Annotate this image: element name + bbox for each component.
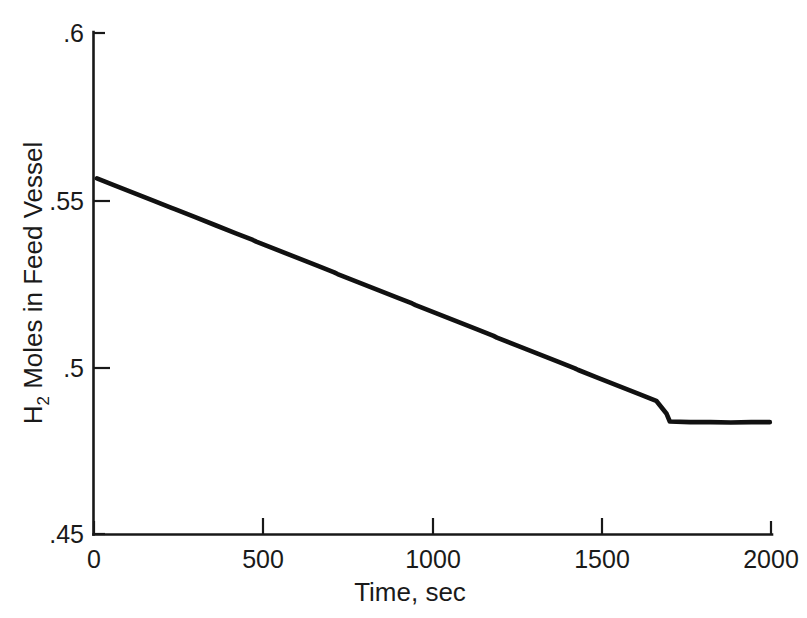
x-tick-label-0: 0 <box>87 545 101 573</box>
y-axis-ticks <box>94 33 111 534</box>
x-axis-ticks <box>94 518 771 535</box>
y-tick-label-0.55: .55 <box>49 187 84 215</box>
svg-text:H2 Moles in Feed Vessel: H2 Moles in Feed Vessel <box>18 142 53 425</box>
x-tick-label-500: 500 <box>242 545 284 573</box>
x-tick-label-2000: 2000 <box>743 545 799 573</box>
y-tick-label-0.45: .45 <box>49 520 84 548</box>
y-axis-title-base: H <box>18 406 48 425</box>
y-tick-label-0.5: .5 <box>63 354 84 382</box>
figure-container: .6 .55 .5 .45 0 500 1000 1500 2000 Time,… <box>0 0 807 618</box>
x-axis-title: Time, sec <box>354 577 466 607</box>
y-axis-title: H2 Moles in Feed Vessel <box>18 142 53 425</box>
x-tick-label-1500: 1500 <box>574 545 630 573</box>
data-series-line <box>97 178 770 422</box>
y-axis-title-rest: Moles in Feed Vessel <box>18 142 48 396</box>
y-tick-label-0.6: .6 <box>63 19 84 47</box>
x-tick-label-1000: 1000 <box>405 545 461 573</box>
line-chart: .6 .55 .5 .45 0 500 1000 1500 2000 Time,… <box>0 0 807 618</box>
y-axis-title-subscript: 2 <box>34 396 53 405</box>
